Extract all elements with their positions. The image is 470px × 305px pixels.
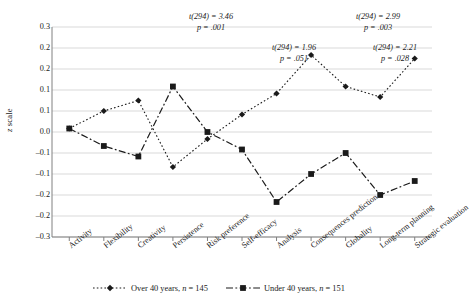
annotation-longterm-p: p = .003 xyxy=(364,23,392,32)
data-point-square xyxy=(66,126,72,132)
series-line-2 xyxy=(69,87,414,203)
annotation-consequences-p: p = .051 xyxy=(280,54,308,63)
legend-item-1[interactable]: Over 40 years, n = 145 xyxy=(93,283,208,293)
annotation-strategic-p: p = .028 xyxy=(381,54,409,63)
annotation-longterm: t(294) = 2.99 p = .003 xyxy=(320,12,436,33)
annotation-analysis: t(294) = 3.46 p = .001 xyxy=(152,12,270,33)
legend-label-1: Over 40 years, n = 145 xyxy=(131,284,208,293)
data-point-square xyxy=(274,199,280,205)
data-point-square xyxy=(170,84,176,90)
data-point-square xyxy=(412,178,418,184)
data-point-square xyxy=(308,171,314,177)
chart-legend: Over 40 years, n = 145Under 40 years, n … xyxy=(0,283,438,293)
annotation-consequences: t(294) = 1.96 p = .051 xyxy=(241,43,347,64)
data-point-diamond xyxy=(239,111,245,117)
data-point-square xyxy=(101,143,107,149)
data-point-square xyxy=(239,147,245,153)
data-point-diamond xyxy=(135,97,141,103)
annotation-consequences-t: t(294) = 1.96 xyxy=(272,43,316,52)
data-point-diamond xyxy=(101,108,107,114)
annotation-longterm-t: t(294) = 2.99 xyxy=(356,12,400,21)
data-point-diamond xyxy=(273,90,279,96)
legend-marker-diamond-icon xyxy=(93,283,127,293)
legend-marker-square-icon xyxy=(226,283,260,293)
legend-label-2: Under 40 years, n = 151 xyxy=(264,284,345,293)
data-point-square xyxy=(135,154,141,160)
annotation-strategic-t: t(294) = 2.21 xyxy=(373,43,417,52)
data-point-square xyxy=(377,192,383,198)
annotation-strategic: t(294) = 2.21 p = .028 xyxy=(352,43,438,64)
data-point-square xyxy=(343,150,349,156)
annotation-analysis-p: p = .001 xyxy=(197,23,225,32)
legend-item-2[interactable]: Under 40 years, n = 151 xyxy=(226,283,345,293)
data-point-square xyxy=(205,129,211,135)
annotation-analysis-t: t(294) = 3.46 xyxy=(189,12,233,21)
